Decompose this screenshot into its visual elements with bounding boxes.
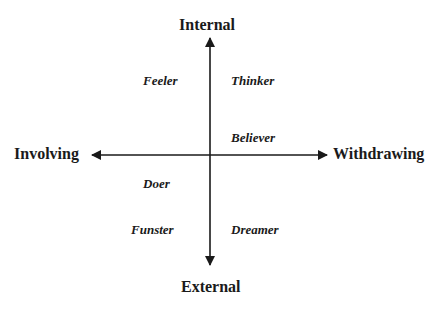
- quadrant-label-dreamer: Dreamer: [231, 222, 279, 238]
- quadrant-label-doer: Doer: [143, 176, 170, 192]
- axis-label-withdrawing: Withdrawing: [333, 145, 424, 163]
- quadrant-label-thinker: Thinker: [231, 73, 274, 89]
- quadrant-label-believer: Believer: [231, 130, 275, 146]
- axis-label-involving: Involving: [14, 145, 79, 163]
- quadrant-label-funster: Funster: [131, 222, 174, 238]
- axis-label-internal: Internal: [179, 16, 235, 34]
- quadrant-label-feeler: Feeler: [143, 73, 178, 89]
- axis-label-external: External: [181, 278, 241, 296]
